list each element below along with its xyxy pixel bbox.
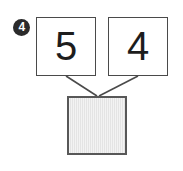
first-addend-value: 5 [37,18,95,75]
second-addend-box: 4 [108,17,168,76]
first-addend-box: 5 [36,17,96,76]
sum-answer-box[interactable] [67,96,127,155]
worksheet-problem: 4 5 4 [0,0,183,171]
problem-number-marker-icon: 4 [13,19,30,36]
second-addend-value: 4 [109,18,167,75]
connector-right-line [99,76,138,96]
connector-left-line [66,76,97,96]
sum-answer-value [69,98,125,153]
